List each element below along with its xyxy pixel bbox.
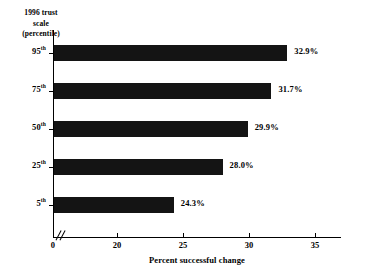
bar-row: 31.7%	[0, 80, 366, 104]
bar	[54, 159, 223, 175]
bar	[54, 45, 287, 61]
x-axis-tick	[183, 233, 184, 238]
bar	[54, 197, 174, 213]
bar-chart: 1996 trust scale (percentile) 32.9%31.7%…	[0, 0, 366, 277]
y-axis-tick-label: 5th	[2, 198, 46, 208]
bar	[54, 83, 271, 99]
y-axis-tick-label: 95th	[2, 46, 46, 56]
ordinal-suffix: th	[41, 159, 46, 165]
y-axis-title-line-2: scale	[4, 19, 78, 30]
x-axis-line	[53, 237, 341, 238]
bar-row: 32.9%	[0, 42, 366, 66]
bar-row: 29.9%	[0, 118, 366, 142]
bar-value-label: 28.0%	[230, 160, 254, 170]
x-axis-label: Percent successful change	[53, 255, 341, 265]
ordinal-suffix: th	[41, 83, 46, 89]
x-axis-tick	[53, 233, 54, 238]
x-axis-tick-label: 30	[237, 240, 261, 250]
bar-row: 28.0%	[0, 156, 366, 180]
x-axis-tick	[249, 233, 250, 238]
y-axis-tick-label: 75th	[2, 84, 46, 94]
x-axis-tick-label: 20	[105, 240, 129, 250]
x-axis-tick	[315, 233, 316, 238]
bar-value-label: 29.9%	[255, 122, 279, 132]
bar-value-label: 24.3%	[181, 198, 205, 208]
y-axis-tick	[49, 129, 53, 130]
bar-row: 24.3%	[0, 194, 366, 218]
y-axis-title: 1996 trust scale (percentile)	[4, 8, 78, 40]
y-axis-tick	[49, 53, 53, 54]
y-axis-tick	[49, 167, 53, 168]
y-axis-title-line-3: (percentile)	[4, 29, 78, 40]
x-axis-tick-label: 35	[303, 240, 327, 250]
y-axis-tick	[49, 91, 53, 92]
y-axis-tick	[49, 205, 53, 206]
ordinal-suffix: th	[41, 45, 46, 51]
bar	[54, 121, 248, 137]
y-axis-title-line-1: 1996 trust	[4, 8, 78, 19]
x-axis-tick-label: 25	[171, 240, 195, 250]
y-axis-tick-label: 25th	[2, 160, 46, 170]
ordinal-suffix: th	[41, 197, 46, 203]
x-axis-tick-label: 0	[41, 240, 65, 250]
ordinal-suffix: th	[41, 121, 46, 127]
y-axis-tick-label: 50th	[2, 122, 46, 132]
bar-value-label: 32.9%	[294, 46, 318, 56]
x-axis-tick	[117, 233, 118, 238]
bar-value-label: 31.7%	[278, 84, 302, 94]
